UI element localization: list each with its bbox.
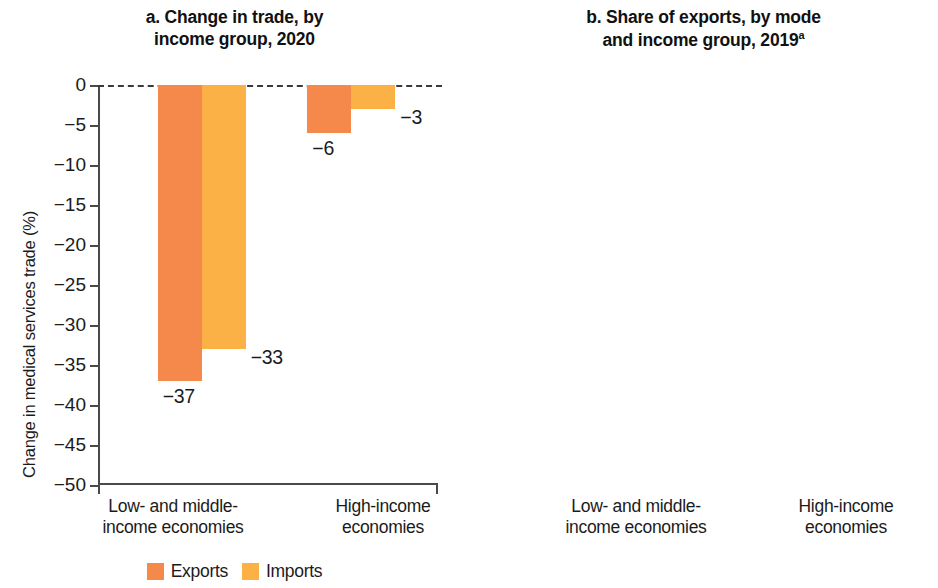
panel-a-category-label-1: High-income economies [268, 496, 498, 539]
panel-a-x-axis-line [98, 483, 438, 485]
panel-a-bar-imports-0 [202, 85, 246, 349]
panel-a-y-tick-label: −15 [54, 194, 86, 216]
panel-a-y-tick [90, 325, 98, 327]
panel-a-y-tick [90, 405, 98, 407]
panel-a-y-axis-title: Change in medical services trade (%) [20, 211, 39, 478]
panel-b-category-label-1: High-income economies [731, 496, 938, 539]
panel-a-y-tick-label: −30 [54, 314, 86, 336]
panel-a-bar-value-label: −33 [251, 346, 283, 369]
panel-a-y-tick-label: −35 [54, 354, 86, 376]
panel-a-y-tick [90, 205, 98, 207]
panel-b-title: b. Share of exports, by mode and income … [469, 6, 938, 52]
panel-a-legend-label: Imports [266, 561, 322, 582]
panel-a-change-in-trade: a. Change in trade, by income group, 202… [0, 0, 469, 588]
panel-a-y-axis-line [98, 85, 100, 485]
legend-swatch-exports-icon [147, 563, 164, 580]
panel-a-bar-imports-1 [351, 85, 395, 109]
panel-a-bar-exports-1 [307, 85, 351, 133]
panel-a-y-tick-label: −5 [64, 114, 86, 136]
panel-a-y-tick [90, 285, 98, 287]
panel-a-y-tick-label: 0 [75, 74, 86, 96]
panel-a-bar-value-label: −6 [312, 137, 334, 160]
panel-b-title-footnote-marker: a [799, 29, 805, 41]
panel-a-legend-label: Exports [171, 561, 228, 582]
panel-a-legend-item: Exports [147, 561, 228, 582]
panel-a-y-tick-label: −50 [54, 474, 86, 496]
legend-swatch-imports-icon [242, 563, 259, 580]
panel-a-y-tick-label: −40 [54, 394, 86, 416]
panel-a-y-tick-label: −45 [54, 434, 86, 456]
panel-a-bar-exports-0 [158, 85, 202, 381]
panel-a-y-tick [90, 445, 98, 447]
panel-a-legend: ExportsImports [0, 561, 469, 582]
panel-a-y-tick-label: −20 [54, 234, 86, 256]
panel-a-y-tick-label: −10 [54, 154, 86, 176]
panel-b-category-label-0: Low- and middle- income economies [521, 496, 751, 539]
panel-a-bar-value-label: −37 [163, 385, 195, 408]
panel-a-plot-area: 0−5−10−15−20−25−30−35−40−45−50 −37−33−6−… [98, 85, 438, 485]
panel-a-x-tick [436, 485, 438, 494]
figure-root: a. Change in trade, by income group, 202… [0, 0, 938, 588]
panel-a-title: a. Change in trade, by income group, 202… [0, 6, 469, 51]
panel-a-y-tick [90, 165, 98, 167]
panel-a-category-label-0: Low- and middle- income economies [58, 496, 288, 539]
panel-a-y-tick [90, 365, 98, 367]
panel-a-x-tick [98, 485, 100, 494]
panel-a-y-tick-label: −25 [54, 274, 86, 296]
panel-a-legend-item: Imports [242, 561, 322, 582]
panel-a-y-tick [90, 125, 98, 127]
panel-a-y-tick [90, 85, 98, 87]
panel-a-y-tick [90, 245, 98, 247]
panel-a-y-tick [90, 485, 98, 487]
panel-b-title-text: b. Share of exports, by mode and income … [586, 7, 821, 50]
panel-b-share-of-exports: b. Share of exports, by mode and income … [469, 0, 938, 588]
panel-a-bar-value-label: −3 [400, 106, 422, 129]
